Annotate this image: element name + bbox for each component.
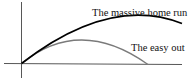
home-run-label: The massive home run: [92, 8, 187, 19]
x-axis: [4, 64, 182, 65]
easy-out-label: The easy out: [131, 43, 185, 54]
home-run-curve: [22, 15, 183, 63]
easy-out-curve: [22, 40, 149, 65]
